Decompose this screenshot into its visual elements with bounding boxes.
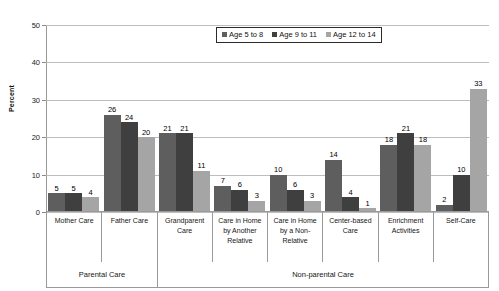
category-label: Care in Home by Another Relative bbox=[213, 212, 268, 262]
bar-slot: 4 bbox=[342, 25, 359, 212]
bar-value-label: 4 bbox=[348, 189, 352, 197]
legend-label: Age 12 to 14 bbox=[333, 30, 376, 39]
category-label-band: Mother CareFather CareGrandparent CareCa… bbox=[46, 212, 489, 262]
bar-value-label: 26 bbox=[108, 106, 116, 114]
bar[interactable] bbox=[270, 175, 287, 212]
bar[interactable] bbox=[214, 186, 231, 212]
bar-value-label: 10 bbox=[274, 166, 282, 174]
bar-slot: 18 bbox=[380, 25, 397, 212]
bar-value-label: 20 bbox=[142, 129, 150, 137]
bar[interactable] bbox=[342, 197, 359, 212]
y-axis-tick-label: 30 bbox=[32, 95, 40, 104]
bar[interactable] bbox=[159, 133, 176, 212]
bar-slot: 21 bbox=[176, 25, 193, 212]
category-label: Self-Care bbox=[434, 212, 488, 262]
category-label: Enrichment Activities bbox=[379, 212, 434, 262]
bar-slot: 26 bbox=[104, 25, 121, 212]
bar-slot: 2 bbox=[436, 25, 453, 212]
bar-group: 554 bbox=[46, 25, 101, 212]
bar-slot: 10 bbox=[270, 25, 287, 212]
bar-value-label: 24 bbox=[125, 114, 133, 122]
bar-group: 21033 bbox=[434, 25, 489, 212]
bar-value-label: 3 bbox=[255, 192, 259, 200]
bar-group: 1441 bbox=[323, 25, 378, 212]
bar-slot: 33 bbox=[470, 25, 487, 212]
bar[interactable] bbox=[176, 133, 193, 212]
bar-value-label: 21 bbox=[163, 125, 171, 133]
bar[interactable] bbox=[121, 122, 138, 212]
bar[interactable] bbox=[138, 137, 155, 212]
legend-item[interactable]: Age 9 to 11 bbox=[272, 30, 317, 39]
bar-slot: 1 bbox=[359, 25, 376, 212]
bar-slot: 3 bbox=[248, 25, 265, 212]
y-axis-tick-label: 50 bbox=[32, 21, 40, 30]
legend-item[interactable]: Age 12 to 14 bbox=[326, 30, 376, 39]
group-label: Non-parental Care bbox=[158, 262, 488, 287]
category-label: Mother Care bbox=[47, 212, 102, 262]
group-label-band: Parental CareNon-parental Care bbox=[46, 262, 489, 288]
bar-value-label: 4 bbox=[89, 189, 93, 197]
legend-label: Age 9 to 11 bbox=[279, 30, 317, 39]
bar-value-label: 5 bbox=[72, 185, 76, 193]
bar[interactable] bbox=[193, 171, 210, 212]
bar[interactable] bbox=[287, 190, 304, 212]
category-label: Grandparent Care bbox=[158, 212, 213, 262]
legend-swatch-icon bbox=[272, 32, 277, 37]
bar-value-label: 18 bbox=[419, 136, 427, 144]
bar[interactable] bbox=[470, 89, 487, 212]
bar-value-label: 10 bbox=[457, 166, 465, 174]
bar-group: 763 bbox=[212, 25, 267, 212]
bar[interactable] bbox=[397, 133, 414, 212]
bar-value-label: 7 bbox=[221, 177, 225, 185]
bar-slot: 18 bbox=[414, 25, 431, 212]
bar[interactable] bbox=[231, 190, 248, 212]
bar-value-label: 3 bbox=[310, 192, 314, 200]
bar-slot: 6 bbox=[287, 25, 304, 212]
bar[interactable] bbox=[453, 175, 470, 212]
bar-slot: 10 bbox=[453, 25, 470, 212]
bar[interactable] bbox=[65, 193, 82, 212]
group-label: Parental Care bbox=[47, 262, 158, 287]
bar-group: 1063 bbox=[268, 25, 323, 212]
bar-group: 262420 bbox=[101, 25, 156, 212]
bar-slot: 20 bbox=[138, 25, 155, 212]
plot-area: 01020304050 5542624202121117631063144118… bbox=[46, 25, 489, 212]
y-axis-tick-label: 10 bbox=[32, 170, 40, 179]
bar-value-label: 5 bbox=[55, 185, 59, 193]
category-label: Center-based Care bbox=[323, 212, 378, 262]
bar-slot: 21 bbox=[397, 25, 414, 212]
legend-label: Age 5 to 8 bbox=[229, 30, 263, 39]
bar-slot: 5 bbox=[65, 25, 82, 212]
legend-swatch-icon bbox=[326, 32, 331, 37]
y-axis-tick-label: 0 bbox=[36, 208, 40, 217]
y-axis-tick-label: 20 bbox=[32, 133, 40, 142]
bar-value-label: 33 bbox=[474, 80, 482, 88]
bar-slot: 5 bbox=[48, 25, 65, 212]
bars-layer: 5542624202121117631063144118211821033 bbox=[46, 25, 489, 212]
bar[interactable] bbox=[82, 197, 99, 212]
bar[interactable] bbox=[104, 115, 121, 212]
bar[interactable] bbox=[380, 145, 397, 212]
bar-chart: Percent 01020304050 55426242021211176310… bbox=[0, 0, 499, 291]
legend-item[interactable]: Age 5 to 8 bbox=[222, 30, 263, 39]
bar-slot: 21 bbox=[159, 25, 176, 212]
bar-slot: 11 bbox=[193, 25, 210, 212]
bar[interactable] bbox=[48, 193, 65, 212]
bar-value-label: 11 bbox=[198, 162, 206, 170]
bar-value-label: 18 bbox=[385, 136, 393, 144]
bar-value-label: 6 bbox=[238, 181, 242, 189]
bar-value-label: 21 bbox=[402, 125, 410, 133]
bar-slot: 24 bbox=[121, 25, 138, 212]
bar-value-label: 2 bbox=[442, 196, 446, 204]
bar-group: 182118 bbox=[378, 25, 433, 212]
legend-swatch-icon bbox=[222, 32, 227, 37]
bar-group: 212111 bbox=[157, 25, 212, 212]
bar-slot: 14 bbox=[325, 25, 342, 212]
bar-slot: 7 bbox=[214, 25, 231, 212]
bar[interactable] bbox=[414, 145, 431, 212]
bar-value-label: 6 bbox=[293, 181, 297, 189]
bar[interactable] bbox=[325, 160, 342, 212]
category-label: Care in Home by a Non-Relative bbox=[268, 212, 323, 262]
bar-value-label: 21 bbox=[180, 125, 188, 133]
category-label: Father Care bbox=[102, 212, 157, 262]
